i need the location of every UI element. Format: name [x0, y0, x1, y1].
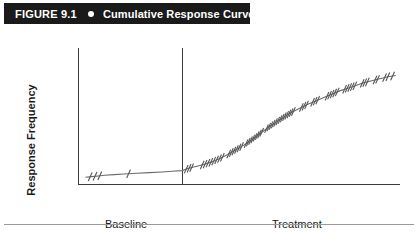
cumulative-curve: [85, 75, 395, 177]
figure-container: FIGURE 9.1 Cumulative Response Curve Res…: [0, 0, 418, 233]
response-tick: [220, 153, 224, 161]
response-tick: [305, 101, 309, 109]
y-axis-title: Response Frequency: [25, 78, 37, 202]
filled-circle-bullet-icon: [88, 11, 94, 17]
figure-number-label: FIGURE 9.1: [15, 8, 77, 20]
response-tick: [300, 103, 304, 111]
cumulative-response-chart: [0, 26, 418, 201]
response-tick: [302, 102, 306, 110]
cumulative-curve-path: [85, 75, 395, 177]
figure-caption-label: Cumulative Response Curve: [103, 8, 255, 20]
footer-divider: [4, 224, 414, 225]
chart-plot-area: Response Frequency Time Baseline Treatme…: [0, 26, 418, 201]
figure-title-bar: FIGURE 9.1 Cumulative Response Curve: [4, 3, 250, 24]
